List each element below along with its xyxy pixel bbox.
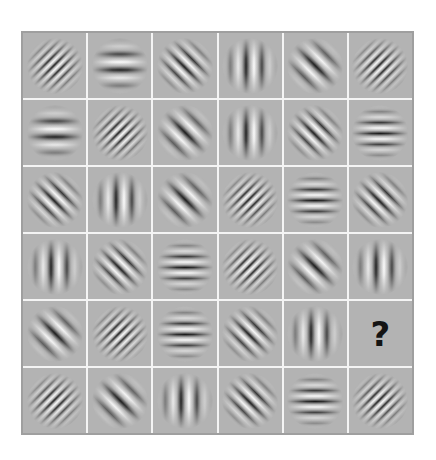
gabor-patch-icon <box>352 373 408 429</box>
gabor-grid: ? <box>23 33 412 433</box>
gabor-patch-icon <box>92 172 148 228</box>
gabor-patch-icon <box>92 239 148 295</box>
gabor-cell <box>284 33 347 98</box>
gabor-patch-icon <box>222 306 278 362</box>
gabor-patch-icon <box>27 38 83 94</box>
gabor-patch-icon <box>222 172 278 228</box>
gabor-cell <box>153 33 216 98</box>
gabor-cell <box>23 100 86 165</box>
gabor-patch-icon <box>222 239 278 295</box>
gabor-cell <box>23 167 86 232</box>
gabor-matrix-puzzle: ? <box>21 31 414 435</box>
gabor-cell <box>23 368 86 433</box>
gabor-cell <box>88 368 151 433</box>
gabor-patch-icon <box>222 105 278 161</box>
gabor-patch-icon <box>352 172 408 228</box>
gabor-cell <box>23 33 86 98</box>
gabor-patch-icon <box>27 306 83 362</box>
gabor-patch-icon <box>352 38 408 94</box>
gabor-cell <box>88 234 151 299</box>
gabor-patch-icon <box>222 373 278 429</box>
missing-cell: ? <box>349 301 412 366</box>
gabor-patch-icon <box>287 239 343 295</box>
gabor-cell <box>153 100 216 165</box>
gabor-cell <box>349 234 412 299</box>
gabor-cell <box>219 100 282 165</box>
gabor-cell <box>153 301 216 366</box>
gabor-cell <box>153 234 216 299</box>
gabor-patch-icon <box>157 38 213 94</box>
gabor-patch-icon <box>92 105 148 161</box>
gabor-patch-icon <box>287 38 343 94</box>
gabor-cell <box>88 301 151 366</box>
gabor-patch-icon <box>27 172 83 228</box>
gabor-patch-icon <box>287 105 343 161</box>
gabor-cell <box>284 368 347 433</box>
gabor-patch-icon <box>352 239 408 295</box>
question-mark: ? <box>349 301 412 366</box>
gabor-patch-icon <box>27 239 83 295</box>
gabor-cell <box>284 100 347 165</box>
gabor-patch-icon <box>157 105 213 161</box>
gabor-patch-icon <box>92 38 148 94</box>
gabor-patch-icon <box>222 38 278 94</box>
gabor-cell <box>284 234 347 299</box>
gabor-cell <box>153 368 216 433</box>
gabor-cell <box>349 100 412 165</box>
gabor-patch-icon <box>157 373 213 429</box>
gabor-patch-icon <box>92 373 148 429</box>
gabor-cell <box>349 167 412 232</box>
gabor-cell <box>219 301 282 366</box>
gabor-patch-icon <box>157 306 213 362</box>
gabor-patch-icon <box>287 172 343 228</box>
gabor-patch-icon <box>92 306 148 362</box>
gabor-cell <box>23 234 86 299</box>
gabor-cell <box>219 368 282 433</box>
gabor-patch-icon <box>287 306 343 362</box>
gabor-patch-icon <box>287 373 343 429</box>
gabor-cell <box>284 167 347 232</box>
gabor-patch-icon <box>27 373 83 429</box>
gabor-patch-icon <box>157 239 213 295</box>
gabor-cell <box>88 33 151 98</box>
gabor-cell <box>219 167 282 232</box>
gabor-cell <box>219 234 282 299</box>
gabor-cell <box>88 167 151 232</box>
gabor-cell <box>153 167 216 232</box>
gabor-cell <box>284 301 347 366</box>
gabor-cell <box>23 301 86 366</box>
gabor-cell <box>349 33 412 98</box>
gabor-patch-icon <box>27 105 83 161</box>
gabor-patch-icon <box>352 105 408 161</box>
gabor-cell <box>219 33 282 98</box>
gabor-cell <box>349 368 412 433</box>
gabor-patch-icon <box>157 172 213 228</box>
gabor-cell <box>88 100 151 165</box>
